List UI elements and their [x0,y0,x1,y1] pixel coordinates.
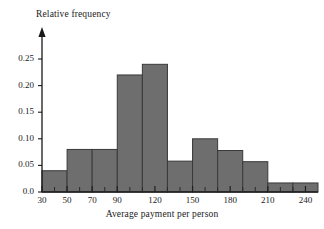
x-tick-label: 120 [140,195,170,205]
y-tick-label: 0.25 [4,53,34,63]
y-tick-label: 0.20 [4,80,34,90]
x-tick-label: 210 [253,195,283,205]
histogram-bar [193,139,218,192]
histogram-bar [117,75,142,192]
y-tick-label: 0.15 [4,106,34,116]
y-axis-title: Relative frequency [36,9,111,19]
histogram-bar [142,64,167,192]
x-tick-label: 240 [290,195,320,205]
bars-group [42,64,318,192]
histogram-bar [92,149,117,192]
x-axis-title: Average payment per person [0,209,324,219]
histogram-figure: Relative frequency Average payment per p… [0,0,324,229]
x-tick-label: 150 [178,195,208,205]
x-tick-label: 90 [102,195,132,205]
histogram-bar [218,151,243,193]
y-tick-label: 0.10 [4,133,34,143]
y-tick-label: 0.05 [4,159,34,169]
histogram-bar [67,149,92,192]
y-axis-arrow-icon [38,27,45,37]
x-tick-label: 180 [215,195,245,205]
